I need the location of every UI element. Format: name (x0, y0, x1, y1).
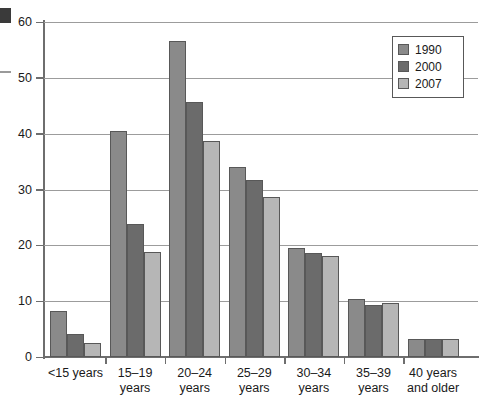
legend-item-1990: 1990 (398, 41, 458, 58)
y-tick-60 (36, 22, 44, 24)
x-tick-4 (344, 357, 346, 364)
bar-2000-15-19-years (127, 224, 144, 357)
bar-1990-15-19-years (110, 131, 127, 357)
bar-2000-30-34-years (305, 253, 322, 357)
y-tick-label-20: 20 (0, 239, 32, 251)
y-tick-10 (36, 301, 44, 303)
y-tick-20 (36, 245, 44, 247)
y-tick-30 (36, 189, 44, 191)
bar-1990-40-years-and-older (408, 339, 425, 357)
bar-1990--15-years (50, 311, 67, 357)
x-label-line: and older (395, 381, 471, 396)
y-tick-50 (36, 77, 44, 79)
bar-1990-30-34-years (288, 248, 305, 357)
bar-1990-20-24-years (169, 41, 186, 357)
x-tick-1 (165, 357, 167, 364)
bar-2000-35-39-years (365, 305, 382, 357)
x-tick-5 (403, 357, 405, 364)
legend: 199020002007 (392, 36, 464, 98)
bar-1990-35-39-years (348, 299, 365, 357)
x-tick-0 (105, 357, 107, 364)
bar-2007-20-24-years (203, 141, 220, 357)
y-tick-label-60: 60 (0, 16, 32, 28)
bar-2007-40-years-and-older (442, 339, 459, 357)
y-tick-label-10: 10 (0, 295, 32, 307)
y-tick-label-0: 0 (0, 351, 32, 363)
y-tick-label-30: 30 (0, 184, 32, 196)
x-tick-3 (284, 357, 286, 364)
bar-2000-20-24-years (186, 102, 203, 357)
x-label-line: 40 years (395, 366, 471, 381)
series-1990-swatch (398, 44, 409, 55)
bar-2000-25-29-years (246, 180, 263, 357)
bar-2007-30-34-years (322, 256, 339, 357)
x-tick-2 (225, 357, 227, 364)
bar-2007--15-years (84, 343, 101, 357)
bar-2007-15-19-years (144, 252, 161, 357)
bar-1990-25-29-years (229, 167, 246, 357)
legend-item-2007: 2007 (398, 75, 458, 92)
y-tick-0 (36, 357, 44, 359)
bar-2007-25-29-years (263, 197, 280, 357)
series-2000-swatch (398, 61, 409, 72)
x-axis-label-6: 40 yearsand older (395, 366, 471, 395)
legend-label-2000: 2000 (415, 61, 442, 73)
bar-2007-35-39-years (382, 303, 399, 357)
y-tick-label-40: 40 (0, 128, 32, 140)
y-tick-label-50: 50 (0, 72, 32, 84)
legend-label-1990: 1990 (415, 44, 442, 56)
grouped-bar-chart: 0102030405060 <15 years15–19years20–24ye… (0, 0, 492, 404)
series-2007-swatch (398, 78, 409, 89)
y-tick-40 (36, 133, 44, 135)
bar-2000-40-years-and-older (425, 339, 442, 357)
legend-label-2007: 2007 (415, 78, 442, 90)
legend-item-2000: 2000 (398, 58, 458, 75)
bar-2000--15-years (67, 334, 84, 357)
